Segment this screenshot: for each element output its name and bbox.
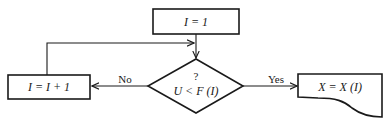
- yes-label: Yes: [268, 73, 284, 85]
- increment-label: I = I + 1: [27, 80, 70, 94]
- output-node: X = X (I): [298, 74, 382, 117]
- decision-label: U < F (I): [173, 84, 218, 98]
- increment-node: I = I + 1: [8, 75, 90, 99]
- flowchart: I = 1 ? U < F (I) No I = I + 1 Yes X = X…: [0, 0, 389, 132]
- decision-node: ? U < F (I): [148, 59, 243, 113]
- init-label: I = 1: [183, 15, 208, 29]
- loop-back-arrow: [47, 43, 194, 75]
- output-label: X = X (I): [317, 80, 362, 94]
- decision-question-mark: ?: [194, 70, 199, 82]
- no-label: No: [118, 73, 132, 85]
- init-node: I = 1: [153, 9, 239, 34]
